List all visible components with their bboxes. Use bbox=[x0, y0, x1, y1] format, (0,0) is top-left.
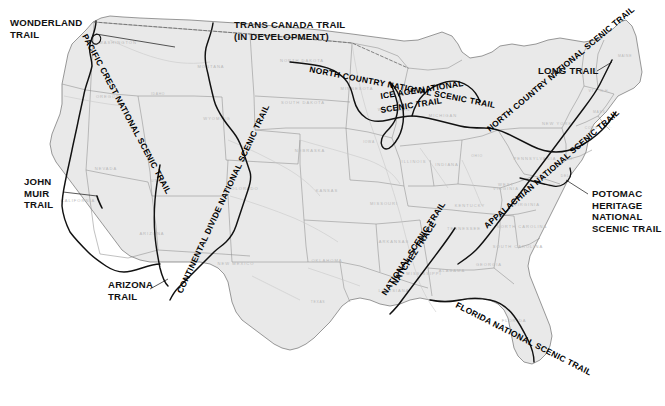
callout-label-trans-canada: TRANS CANADA TRAIL(IN DEVELOPMENT) bbox=[234, 19, 345, 42]
callout-label-long-trail: LONG TRAIL bbox=[538, 65, 599, 76]
state-label: KANSAS bbox=[316, 188, 339, 193]
state-label: WYOMING bbox=[203, 116, 230, 121]
state-label: ALABAMA bbox=[439, 268, 465, 273]
callout-label-potomac: POTOMACHERITAGENATIONALSCENIC TRAIL bbox=[592, 188, 662, 234]
state-label: SOUTH CAROLINA bbox=[493, 244, 543, 249]
state-label: MAINE bbox=[618, 54, 632, 58]
state-label: SOUTH DAKOTA bbox=[281, 100, 325, 105]
state-label: MINNESOTA bbox=[340, 86, 373, 91]
us-trails-map-svg: WASHINGTONOREGONIDAHOMONTANANORTH DAKOTA… bbox=[0, 0, 665, 406]
state-label: KENTUCKY bbox=[455, 203, 485, 208]
state-label: CALIFORNIA bbox=[61, 198, 96, 203]
state-label: OKLAHOMA bbox=[311, 258, 342, 263]
callout-leader-line bbox=[566, 180, 588, 194]
state-label: ARKANSAS bbox=[379, 239, 409, 244]
state-label: NEW YORK bbox=[542, 121, 572, 126]
callout-label-john-muir: JOHNMUIRTRAIL bbox=[24, 176, 53, 210]
state-label: TEXAS bbox=[311, 300, 326, 304]
state-label: MASS. bbox=[593, 110, 607, 114]
state-label: NEBRASKA bbox=[295, 148, 325, 153]
state-label: MICHIGAN bbox=[429, 113, 457, 118]
state-label: OHIO bbox=[471, 154, 482, 158]
state-label: WASHINGTON bbox=[99, 40, 137, 45]
state-label: FLORIDA bbox=[502, 318, 527, 323]
state-label: PENNSYLVANIA bbox=[514, 156, 557, 161]
state-label: IDAHO bbox=[151, 92, 165, 96]
state-label: MONTANA bbox=[197, 64, 224, 69]
state-label: NEVADA bbox=[95, 166, 118, 171]
state-label: IOWA bbox=[363, 140, 375, 144]
state-label: NORTH DAKOTA bbox=[280, 58, 324, 63]
state-label: NORTH CAROLINA bbox=[497, 224, 548, 229]
state-label: GEORGIA bbox=[476, 262, 502, 267]
state-label: MISSOURI bbox=[370, 201, 398, 206]
callout-label-arizona: ARIZONATRAIL bbox=[108, 279, 153, 302]
state-label: INDIANA bbox=[435, 162, 459, 167]
state-label: ARIZONA bbox=[139, 231, 164, 236]
state-label: ILLINOIS bbox=[402, 159, 427, 164]
callout-label-wonderland: WONDERLANDTRAIL bbox=[10, 17, 82, 40]
state-label: NEW MEXICO bbox=[218, 261, 255, 266]
state-label: N.H. bbox=[600, 89, 610, 93]
state-label: TENNESSEE bbox=[447, 226, 481, 231]
trail-map: WASHINGTONOREGONIDAHOMONTANANORTH DAKOTA… bbox=[0, 0, 665, 406]
